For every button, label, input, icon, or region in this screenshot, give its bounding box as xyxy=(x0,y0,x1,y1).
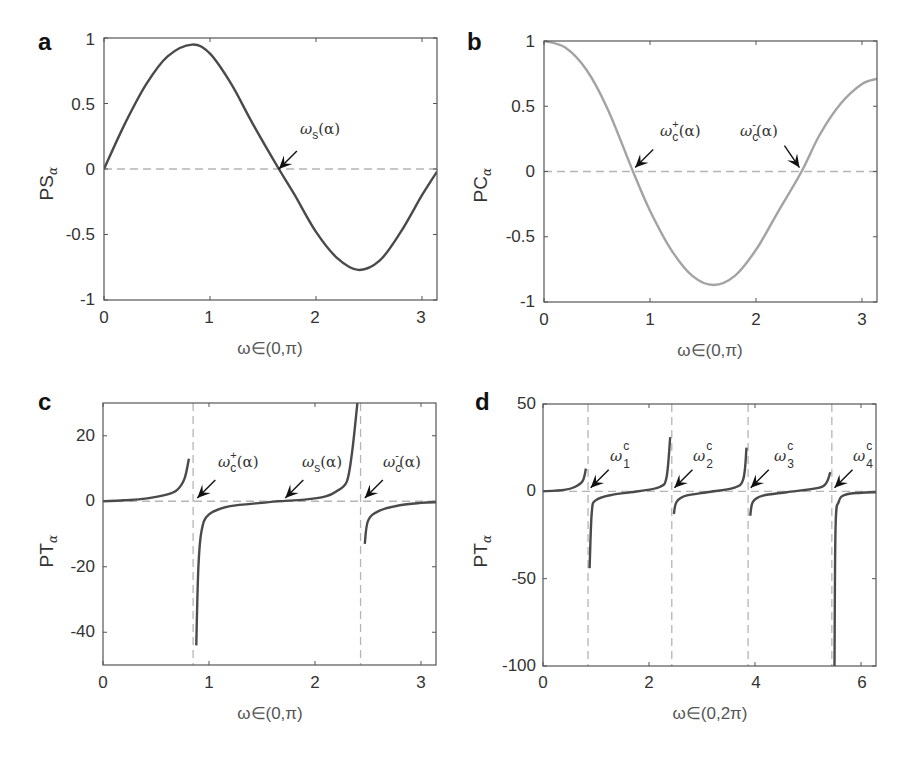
axes-box xyxy=(104,38,437,300)
data-curve xyxy=(590,437,671,568)
data-curve xyxy=(103,459,189,502)
data-curve xyxy=(750,472,830,516)
arrow-head-icon xyxy=(787,153,799,167)
axes-box xyxy=(543,404,876,666)
data-curve xyxy=(835,492,877,666)
data-curve xyxy=(104,45,437,270)
data-curve xyxy=(543,469,586,492)
data-curve xyxy=(196,403,357,645)
data-curve xyxy=(544,41,877,285)
data-curve xyxy=(365,502,436,544)
axes-box xyxy=(103,403,436,665)
data-curve xyxy=(674,448,747,514)
plot-canvas xyxy=(0,0,905,757)
